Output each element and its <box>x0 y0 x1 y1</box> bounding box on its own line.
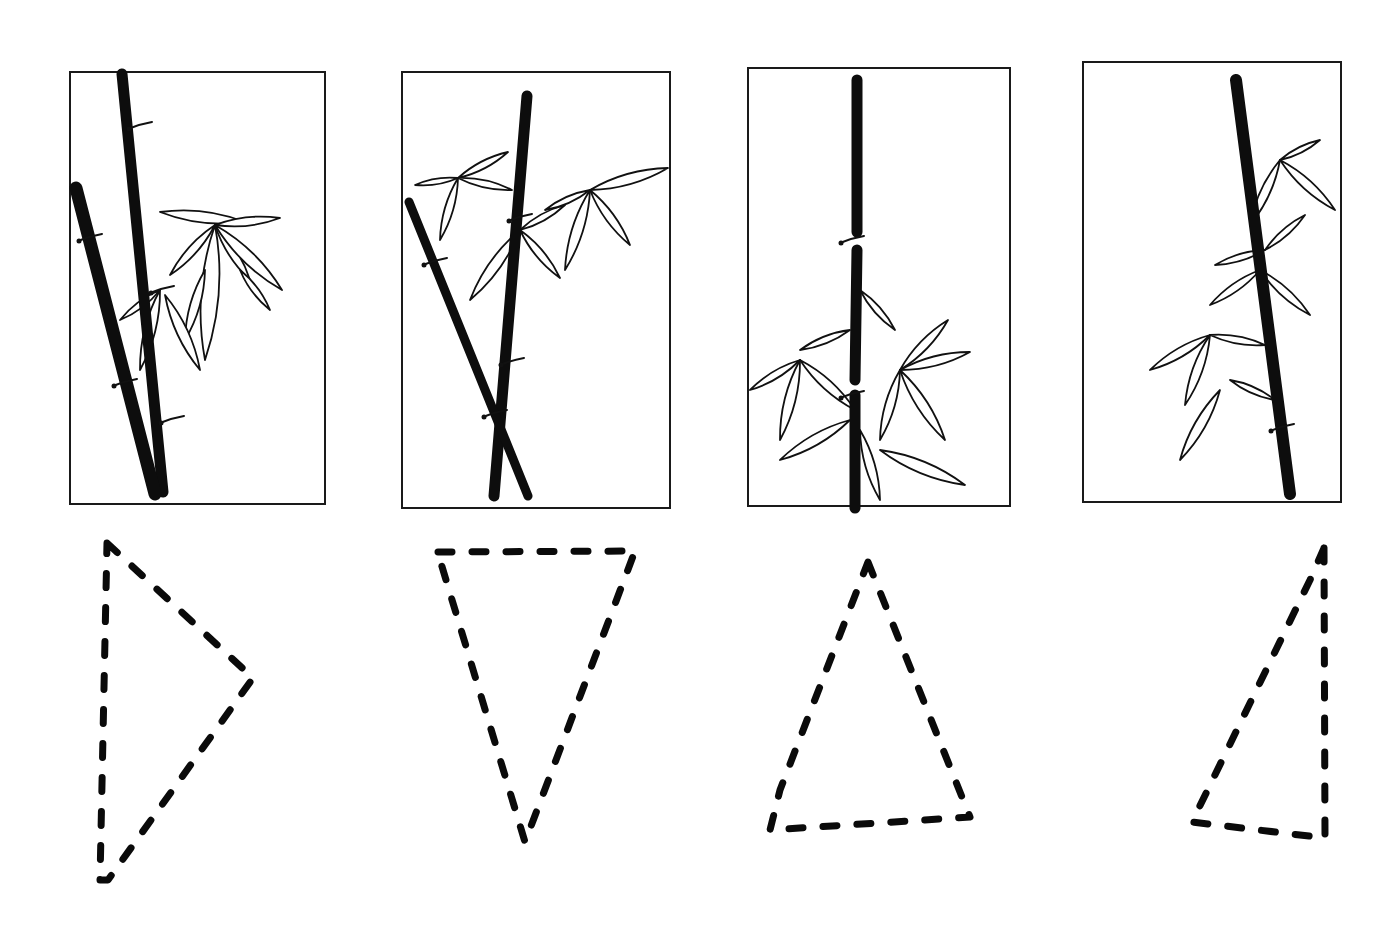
panel-4 <box>1083 62 1341 502</box>
bamboo-node <box>150 286 174 293</box>
bamboo-node <box>840 236 864 243</box>
bamboo-leaf <box>860 430 880 500</box>
composition-triangles <box>100 543 1325 880</box>
panel-1 <box>70 72 325 504</box>
bamboo-node-knot <box>77 239 82 244</box>
bamboo-node-knot <box>839 241 844 246</box>
bamboo-leaf <box>415 178 458 186</box>
bamboo-node-knot <box>482 415 487 420</box>
bamboo-panels <box>70 62 1341 508</box>
bamboo-leaf <box>780 420 850 460</box>
bamboo-leaf <box>590 190 630 245</box>
bamboo-leaf <box>458 178 512 190</box>
bamboo-leaf <box>440 178 458 240</box>
panel-3 <box>748 68 1010 508</box>
panel-2 <box>402 72 670 508</box>
bamboo-leaf <box>800 360 855 410</box>
bamboo-composition-sketch <box>0 0 1400 927</box>
bamboo-leaf <box>458 152 508 178</box>
bamboo-leaf <box>1265 215 1305 250</box>
bamboo-stalk <box>855 250 857 380</box>
triangle-inverted <box>438 551 635 842</box>
bamboo-leaf <box>1280 140 1320 160</box>
bamboo-node-knot <box>1269 429 1274 434</box>
bamboo-leaf <box>520 230 560 278</box>
panel-frame <box>748 68 1010 506</box>
bamboo-leaf <box>1230 380 1275 400</box>
bamboo-leaf <box>860 290 895 330</box>
bamboo-node-knot <box>499 363 504 368</box>
bamboo-leaf <box>590 168 668 190</box>
triangle-right-pointing <box>100 543 253 880</box>
bamboo-node-knot <box>422 263 427 268</box>
bamboo-leaf <box>880 370 900 440</box>
bamboo-leaf <box>1280 160 1335 210</box>
bamboo-leaf <box>1210 270 1260 305</box>
bamboo-leaf <box>880 450 965 485</box>
bamboo-leaf <box>520 205 565 230</box>
bamboo-leaf <box>800 330 850 350</box>
bamboo-node-knot <box>159 421 164 426</box>
bamboo-node <box>160 416 184 423</box>
bamboo-leaf <box>900 370 945 440</box>
triangle-upright <box>770 562 970 830</box>
panel-frame <box>1083 62 1341 502</box>
bamboo-node-knot <box>839 396 844 401</box>
bamboo-node-knot <box>127 127 132 132</box>
triangle-right-angle <box>1192 548 1325 838</box>
bamboo-node-knot <box>507 219 512 224</box>
bamboo-leaf <box>1210 335 1265 346</box>
bamboo-node-knot <box>149 291 154 296</box>
bamboo-node-knot <box>112 384 117 389</box>
